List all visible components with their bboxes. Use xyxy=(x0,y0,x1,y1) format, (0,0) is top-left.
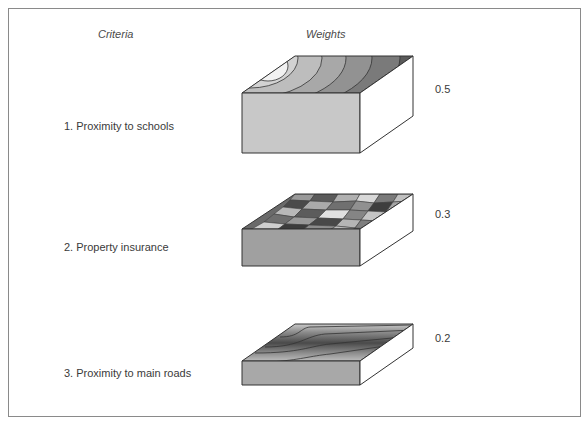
surface-block-insurance xyxy=(240,192,416,266)
surface-block-schools xyxy=(100,0,416,153)
surface-block-roads xyxy=(240,322,416,385)
